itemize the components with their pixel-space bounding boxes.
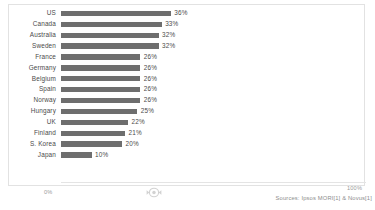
x-axis-tick-max: 100% [347, 186, 362, 192]
category-label: Norway [9, 97, 61, 103]
bar-track: 32% [61, 41, 366, 52]
bar-row: France26% [9, 52, 366, 63]
bar-value-label: 26% [144, 97, 157, 103]
bar-track: 33% [61, 19, 366, 30]
bar-row: Japan10% [9, 150, 366, 161]
bar-row: Belgium26% [9, 73, 366, 84]
bar-fill [61, 33, 159, 38]
bar-row: US36% [9, 8, 366, 19]
bar-track: 26% [61, 62, 366, 73]
category-label: S. Korea [9, 141, 61, 147]
category-label: Sweden [9, 43, 61, 49]
bar-row: S. Korea20% [9, 139, 366, 150]
bar-fill [61, 152, 92, 157]
bar-value-label: 22% [132, 119, 145, 125]
bar-row: Germany26% [9, 62, 366, 73]
category-label: Spain [9, 86, 61, 92]
bar-track: 26% [61, 52, 366, 63]
bar-value-label: 26% [144, 76, 157, 82]
category-label: US [9, 10, 61, 16]
category-label: Germany [9, 65, 61, 71]
category-label: UK [9, 119, 61, 125]
bar-value-label: 26% [144, 54, 157, 60]
bar-row: Spain26% [9, 84, 366, 95]
category-label: Canada [9, 21, 61, 27]
bar-chart-plot-area: US36%Canada33%Australia32%Sweden32%Franc… [9, 8, 366, 178]
category-label: France [9, 54, 61, 60]
bar-value-label: 10% [95, 152, 108, 158]
bar-fill [61, 76, 140, 81]
source-note: Sources: Ipsos MORI[1] & Novus[1] [276, 196, 372, 202]
bar-row: UK22% [9, 117, 366, 128]
x-axis-line [61, 182, 366, 183]
bar-value-label: 26% [144, 86, 157, 92]
bar-value-label: 21% [129, 130, 142, 136]
bar-value-label: 32% [162, 43, 175, 49]
category-label: Japan [9, 152, 61, 158]
bar-fill [61, 141, 122, 146]
bar-fill [61, 54, 140, 59]
bar-fill [61, 11, 171, 16]
bar-track: 20% [61, 139, 366, 150]
category-label: Belgium [9, 76, 61, 82]
bar-track: 26% [61, 73, 366, 84]
bar-fill [61, 65, 140, 70]
bar-track: 21% [61, 128, 366, 139]
x-axis-tick-min: 0% [44, 190, 53, 196]
bar-track: 36% [61, 8, 366, 19]
bar-fill [61, 87, 140, 92]
bar-value-label: 33% [165, 21, 178, 27]
bar-row: Hungary25% [9, 106, 366, 117]
bar-fill [61, 43, 159, 48]
bar-track: 22% [61, 117, 366, 128]
bar-value-label: 36% [174, 10, 187, 16]
circular-logo-watermark-icon [146, 184, 162, 195]
bar-value-label: 32% [162, 32, 175, 38]
bar-fill [61, 98, 140, 103]
bar-track: 25% [61, 106, 366, 117]
category-label: Australia [9, 32, 61, 38]
bar-row: Australia32% [9, 30, 366, 41]
bar-track: 26% [61, 95, 366, 106]
bar-fill [61, 22, 162, 27]
bar-track: 32% [61, 30, 366, 41]
bar-row: Norway26% [9, 95, 366, 106]
bar-value-label: 20% [126, 141, 139, 147]
bar-row: Canada33% [9, 19, 366, 30]
category-label: Hungary [9, 108, 61, 114]
category-label: Finland [9, 130, 61, 136]
bar-value-label: 26% [144, 65, 157, 71]
bar-row: Finland21% [9, 128, 366, 139]
bar-track: 26% [61, 84, 366, 95]
bar-track: 10% [61, 150, 366, 161]
bar-value-label: 25% [141, 108, 154, 114]
bar-fill [61, 109, 137, 114]
bar-fill [61, 120, 128, 125]
bar-fill [61, 131, 125, 136]
chart-panel: US36%Canada33%Australia32%Sweden32%Franc… [8, 4, 365, 186]
bar-row: Sweden32% [9, 41, 366, 52]
